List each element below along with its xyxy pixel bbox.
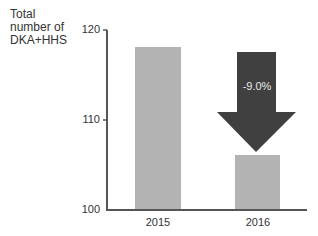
- bar-2016: [235, 155, 280, 210]
- change-label: -9.0%: [232, 80, 282, 92]
- x-tick-2015: 2015: [128, 216, 188, 228]
- x-tick-2016: 2016: [228, 216, 288, 228]
- chart-plot: [0, 0, 318, 236]
- down-arrow-icon: [217, 52, 296, 152]
- bar-2015: [135, 47, 181, 210]
